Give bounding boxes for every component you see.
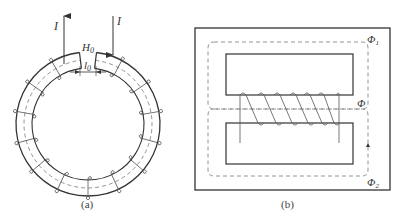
flux-path-lower [208,109,368,176]
label-flux-2: Φ2 [367,176,379,190]
label-current-right: I [116,14,122,28]
core-window-upper [226,54,353,95]
label-gap-length: l0 [84,59,91,73]
toroid-inner-edge [32,68,144,180]
toroid-outer-edge [16,53,160,196]
flux-direction-arrow-icon [366,143,370,147]
caption-a: (a) [81,198,94,211]
dim-arrow-left-icon [75,70,80,74]
label-gap-field: H0 [81,41,94,55]
toroid-winding [13,56,163,200]
label-flux-1: Φ1 [367,33,379,47]
flux-path-upper [208,42,368,109]
core-window-lower [226,123,353,164]
figure-b-core [195,28,390,190]
caption-b: (b) [281,198,294,211]
toroid-mean-path [24,60,152,188]
diagram-canvas: I I H0 l0 (a) Φ1 Φ Φ2 (b) [0,0,395,219]
label-flux-total: Φ [357,97,366,109]
dim-arrow-right-icon [96,70,101,74]
label-current-left: I [53,19,59,33]
center-limb-coil [240,93,340,143]
